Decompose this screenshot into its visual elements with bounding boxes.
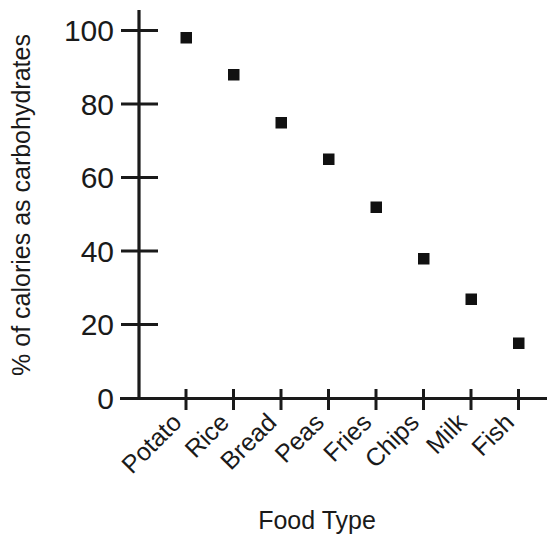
x-tick-label-chips: Chips xyxy=(359,408,424,473)
y-tick-label-0: 0 xyxy=(97,382,114,415)
y-axis-title: % of calories as carbohydrates xyxy=(7,34,35,376)
data-point-rice xyxy=(228,69,240,81)
x-tick-label-potato: Potato xyxy=(116,408,187,479)
data-point-fries xyxy=(371,202,383,214)
y-axis-tick-labels: 100 80 60 40 20 0 xyxy=(64,14,114,415)
y-tick-label-100: 100 xyxy=(64,14,114,47)
x-tick-label-peas: Peas xyxy=(269,408,329,468)
x-axis-title: Food Type xyxy=(258,506,376,534)
chart-container: 100 80 60 40 20 0 Potato Rice Bread Peas… xyxy=(0,0,547,544)
x-axis-tick-labels: Potato Rice Bread Peas Fries Chips Milk … xyxy=(116,407,519,478)
data-point-bread xyxy=(276,117,288,129)
y-tick-label-60: 60 xyxy=(81,161,114,194)
x-tick-label-fish: Fish xyxy=(466,408,519,461)
data-point-potato xyxy=(181,32,193,44)
data-point-peas xyxy=(323,154,335,166)
x-tick-label-bread: Bread xyxy=(215,408,282,475)
data-point-chips xyxy=(418,253,430,265)
data-point-fish xyxy=(513,338,525,350)
y-tick-label-80: 80 xyxy=(81,88,114,121)
y-tick-label-20: 20 xyxy=(81,308,114,341)
x-tick-label-milk: Milk xyxy=(420,407,472,459)
y-tick-label-40: 40 xyxy=(81,235,114,268)
data-point-milk xyxy=(466,294,478,306)
data-markers xyxy=(181,32,525,349)
scatter-plot: 100 80 60 40 20 0 Potato Rice Bread Peas… xyxy=(0,0,547,544)
